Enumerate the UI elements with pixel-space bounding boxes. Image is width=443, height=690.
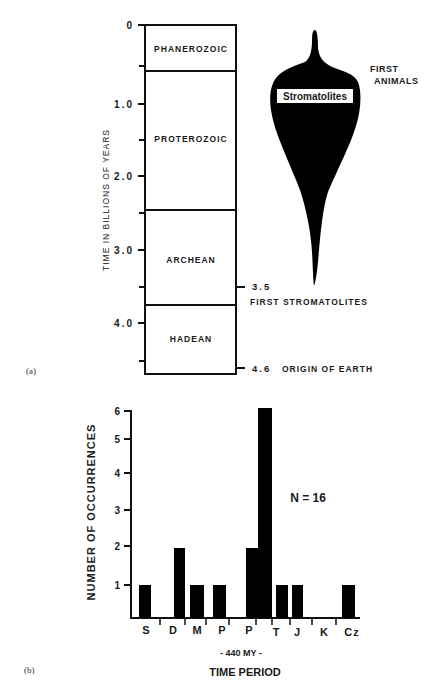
panel-b-label: (b) (24, 665, 35, 675)
bar-p-t (258, 408, 272, 618)
y-tick-label: 5 (114, 434, 120, 445)
marker-4-6-value: 4.6 (252, 363, 271, 374)
panel-b: 1 2 3 4 5 6 NUMBER OF OCCURRENCES (24, 406, 360, 678)
eon-label-archean: ARCHEAN (166, 255, 216, 265)
time-column-box (145, 25, 236, 374)
bar-t (276, 585, 288, 618)
x-label-d: D (169, 624, 177, 636)
first-animals-line2: ANIMALS (374, 76, 419, 86)
x-axis-label-b: TIME PERIOD (209, 666, 281, 678)
bar-s (139, 585, 151, 618)
x-label-k: K (320, 626, 328, 638)
panel-a: 0 1.0 2.0 3.0 4.0 TIME IN BILLIONS OF YE… (26, 20, 419, 376)
eon-label-proterozoic: PROTEROZOIC (154, 134, 227, 144)
bar-cz (342, 585, 355, 618)
bar-j (292, 585, 303, 618)
y-ticks-a (138, 25, 245, 368)
y-tick-label: 6 (114, 406, 120, 417)
bar-p2 (246, 548, 259, 618)
tick-label: 2.0 (114, 171, 134, 182)
tick-label: 4.0 (114, 318, 134, 329)
bar-p1 (213, 585, 226, 618)
panel-a-label: (a) (26, 366, 36, 376)
y-tick-label: 4 (114, 468, 120, 479)
x-label-p1: P (218, 624, 225, 636)
x-sublabel: - 440 MY - (220, 648, 262, 658)
marker-3-5-value: 3.5 (252, 281, 271, 292)
stromatolites-label: Stromatolites (283, 91, 347, 102)
y-axis-label-b: NUMBER OF OCCURRENCES (85, 424, 97, 601)
y-ticks-b (124, 411, 131, 585)
y-tick-label: 1 (114, 580, 120, 591)
tick-label: 0 (126, 20, 132, 31)
origin-of-earth-label: ORIGIN OF EARTH (282, 364, 373, 374)
first-stromatolites-label: FIRST STROMATOLITES (250, 297, 368, 307)
x-label-m: M (192, 624, 201, 636)
x-label-s: S (142, 624, 149, 636)
n-annotation: N = 16 (290, 491, 326, 505)
bar-m (190, 585, 204, 618)
x-label-t: T (273, 626, 280, 638)
tick-label: 3.0 (114, 245, 134, 256)
bar-d (174, 548, 185, 618)
bars (139, 408, 355, 618)
stromatolite-abundance-shape (270, 30, 360, 286)
y-tick-label: 3 (114, 505, 120, 516)
eon-label-phanerozoic: PHANEROZOIC (154, 44, 228, 54)
figure-canvas: 0 1.0 2.0 3.0 4.0 TIME IN BILLIONS OF YE… (0, 0, 443, 690)
y-axis-label-a: TIME IN BILLIONS OF YEARS (101, 129, 111, 271)
x-label-p2: P (245, 624, 252, 636)
x-label-j: J (294, 626, 300, 638)
x-label-cz: Cz (344, 626, 359, 638)
tick-label: 1.0 (114, 99, 134, 110)
y-tick-label: 2 (114, 541, 120, 552)
first-animals-line1: FIRST (370, 64, 399, 74)
eon-label-hadean: HADEAN (170, 334, 212, 344)
